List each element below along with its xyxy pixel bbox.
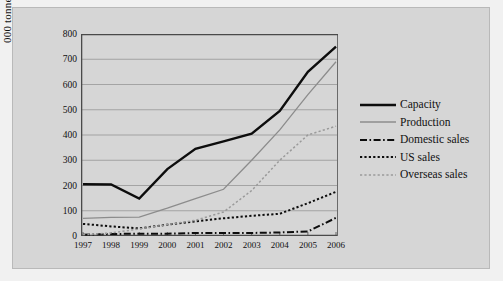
y-axis-tick-labels: 0100200300400500600700800 [39, 34, 77, 236]
legend-label: US sales [400, 152, 440, 164]
y-axis-tick-label: 600 [63, 80, 77, 90]
chart-svg [81, 34, 338, 236]
legend-label: Capacity [400, 99, 441, 111]
legend-swatch-solid-thin [359, 116, 397, 128]
x-axis-tick-label: 2002 [215, 240, 233, 250]
x-axis-tick-label: 2005 [299, 240, 317, 250]
legend-label: Domestic sales [400, 134, 469, 146]
chart-page: 000 tonnes 0100200300400500600700800 199… [0, 0, 503, 281]
legend-item-overseas-sales: Overseas sales [359, 166, 494, 184]
series-line-overseas-sales [83, 126, 336, 235]
x-axis-tick-labels: 1997199819992000200120022003200420052006 [81, 240, 338, 256]
legend-item-capacity: Capacity [359, 96, 494, 114]
x-axis-tick-label: 1998 [102, 240, 120, 250]
y-axis-tick-label: 100 [63, 206, 77, 216]
series-line-capacity [83, 47, 336, 199]
y-axis-tick-label: 700 [63, 54, 77, 64]
legend-item-us-sales: US sales [359, 149, 494, 167]
x-axis-tick-label: 2001 [186, 240, 204, 250]
legend-swatch-solid-thick [359, 99, 397, 111]
y-axis-tick-label: 500 [63, 105, 77, 115]
chart-legend: CapacityProductionDomestic salesUS sales… [359, 96, 494, 184]
x-axis-tick-label: 2004 [271, 240, 289, 250]
chart-panel: 000 tonnes 0100200300400500600700800 199… [12, 7, 490, 269]
legend-swatch-dotted-light [359, 169, 397, 181]
series-line-domestic-sales [83, 218, 336, 235]
x-axis-tick-label: 1997 [74, 240, 92, 250]
legend-item-domestic-sales: Domestic sales [359, 131, 494, 149]
y-axis-tick-label: 300 [63, 155, 77, 165]
x-axis-tick-label: 2003 [243, 240, 261, 250]
series-line-us-sales [83, 192, 336, 229]
y-axis-tick-label: 200 [63, 181, 77, 191]
x-axis-tick-label: 1999 [130, 240, 148, 250]
legend-swatch-dash-dot [359, 134, 397, 146]
legend-label: Production [400, 117, 450, 129]
x-axis-tick-label: 2006 [327, 240, 345, 250]
y-axis-title: 000 tonnes [1, 0, 13, 78]
plot-area [81, 34, 338, 236]
y-axis-tick-label: 800 [63, 29, 77, 39]
legend-item-production: Production [359, 114, 494, 132]
y-axis-tick-label: 400 [63, 130, 77, 140]
legend-swatch-dotted [359, 151, 397, 163]
legend-label: Overseas sales [400, 169, 467, 181]
x-axis-tick-label: 2000 [158, 240, 176, 250]
